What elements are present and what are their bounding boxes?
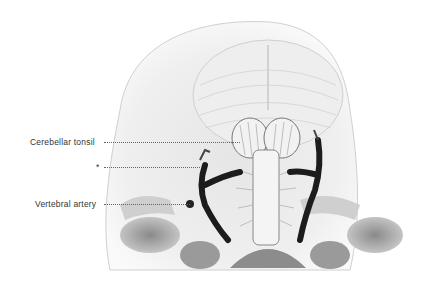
anatomical-illustration: [0, 0, 429, 306]
leader-line-asterisk: [104, 167, 200, 168]
label-asterisk: *: [96, 162, 100, 172]
label-cerebellar-tonsil: Cerebellar tonsil: [30, 137, 95, 147]
label-vertebral-artery: Vertebral artery: [35, 199, 96, 209]
leader-line-cerebellar-tonsil: [104, 142, 240, 143]
brainstem: [253, 150, 279, 245]
leader-line-vertebral-artery: [104, 204, 190, 205]
